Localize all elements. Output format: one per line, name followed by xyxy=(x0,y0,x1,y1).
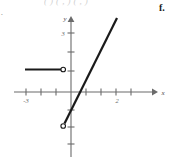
open-circle-upper xyxy=(61,67,66,72)
x-axis-arrow-icon xyxy=(152,89,158,96)
graph-plot: -3 2 x 3 y xyxy=(0,0,176,163)
y-axis-group: 3 y xyxy=(60,15,74,157)
y-axis-arrow-icon xyxy=(68,16,75,22)
x-axis-label: x xyxy=(160,89,165,97)
open-circle-lower xyxy=(61,124,66,129)
x-axis-group: -3 2 x xyxy=(14,89,165,105)
x-tick-label-minus3: -3 xyxy=(23,97,29,104)
y-axis-label: y xyxy=(62,15,67,23)
series-linear-branch xyxy=(61,18,117,128)
y-tick-label-3: 3 xyxy=(60,30,65,37)
x-tick-label-2: 2 xyxy=(115,97,119,104)
figure-container: ( ) ( , ) ( , ) . f. -3 2 x xyxy=(0,0,176,163)
series-constant-branch xyxy=(25,67,66,72)
